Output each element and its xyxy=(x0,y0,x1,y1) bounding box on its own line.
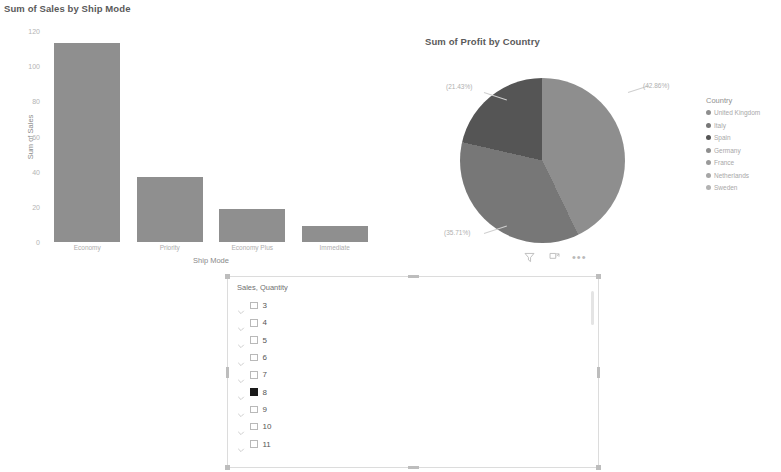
slicer-checkbox[interactable] xyxy=(250,319,258,327)
bar-column[interactable] xyxy=(46,31,129,242)
resize-handle-right-middle[interactable] xyxy=(597,367,600,378)
slicer-item-label: 6 xyxy=(263,353,267,362)
sales-by-ship-mode-visual[interactable]: Sum of Sales by Ship Mode Sum of Sales 1… xyxy=(0,0,392,268)
bar-rect[interactable] xyxy=(302,226,368,242)
slicer-checkbox[interactable] xyxy=(250,440,258,448)
slicer-item-label: 8 xyxy=(263,388,267,397)
slicer-item[interactable]: 9 xyxy=(237,401,590,418)
legend-item[interactable]: Sweden xyxy=(706,184,781,191)
resize-handle-bottom-left[interactable] xyxy=(225,465,230,470)
resize-handle-bottom-right[interactable] xyxy=(596,465,601,470)
bar-column[interactable] xyxy=(129,31,212,242)
legend-swatch-icon xyxy=(706,123,711,128)
slicer-checkbox[interactable] xyxy=(250,302,258,310)
legend-item[interactable]: Netherlands xyxy=(706,172,781,179)
bar-column[interactable] xyxy=(294,31,377,242)
chevron-down-icon[interactable] xyxy=(237,388,245,396)
bar-chart-y-tick: 120 xyxy=(28,28,40,35)
slicer-item-label: 5 xyxy=(263,336,267,345)
sales-quantity-slicer[interactable]: Sales, Quantity 34567891011 xyxy=(227,276,599,468)
legend-title: Country xyxy=(706,96,781,105)
chevron-down-icon[interactable] xyxy=(237,371,245,379)
focus-mode-icon[interactable] xyxy=(547,250,561,264)
slicer-checkbox[interactable] xyxy=(250,371,258,379)
bar-chart-x-axis-title: Ship Mode xyxy=(46,256,376,265)
chevron-down-icon[interactable] xyxy=(237,319,245,327)
profit-by-country-visual[interactable]: Sum of Profit by Country (42.86%) (21.43… xyxy=(392,0,712,276)
slicer-item-label: 9 xyxy=(263,405,267,414)
slicer-item[interactable]: 3 xyxy=(237,297,590,314)
resize-handle-left-middle[interactable] xyxy=(226,367,229,378)
slicer-item[interactable]: 5 xyxy=(237,332,590,349)
legend-swatch-icon xyxy=(706,185,711,190)
slicer-checkbox[interactable] xyxy=(250,406,258,414)
legend-item-label: Spain xyxy=(714,134,731,141)
pie-data-label-spain: (35.71%) xyxy=(444,229,470,236)
bar-rect[interactable] xyxy=(137,177,203,242)
bar-chart-title: Sum of Sales by Ship Mode xyxy=(4,3,131,14)
visual-toolbar: ••• xyxy=(522,250,587,264)
bar-chart-x-tick-label: Immediate xyxy=(294,244,377,251)
slicer-item[interactable]: 10 xyxy=(237,418,590,435)
legend-item[interactable]: France xyxy=(706,159,781,166)
bar-chart-x-tick-label: Economy Plus xyxy=(211,244,294,251)
resize-handle-bottom-middle[interactable] xyxy=(408,466,419,469)
resize-handle-top-left[interactable] xyxy=(225,274,230,279)
more-options-icon[interactable]: ••• xyxy=(572,254,587,260)
slicer-scrollbar[interactable] xyxy=(591,291,594,325)
bar-chart-y-tick: 40 xyxy=(32,168,40,175)
legend-item-label: Netherlands xyxy=(714,172,749,179)
chevron-down-icon[interactable] xyxy=(237,423,245,431)
legend-item[interactable]: United Kingdom xyxy=(706,109,781,116)
slicer-item[interactable]: 7 xyxy=(237,366,590,383)
legend-item[interactable]: Germany xyxy=(706,147,781,154)
bar-chart-x-tick-labels: EconomyPriorityEconomy PlusImmediate xyxy=(46,244,376,251)
legend-swatch-icon xyxy=(706,173,711,178)
bar-chart-y-tick: 100 xyxy=(28,63,40,70)
bar-chart-bars xyxy=(46,31,376,242)
slicer-item[interactable]: 8 xyxy=(237,383,590,400)
bar-column[interactable] xyxy=(211,31,294,242)
slicer-checkbox[interactable] xyxy=(250,388,258,396)
slicer-checkbox[interactable] xyxy=(250,336,258,344)
bar-rect[interactable] xyxy=(54,43,120,242)
bar-rect[interactable] xyxy=(219,209,285,242)
chevron-down-icon[interactable] xyxy=(237,336,245,344)
slicer-item-label: 4 xyxy=(263,318,267,327)
legend-item[interactable]: Spain xyxy=(706,134,781,141)
bar-chart-plot-area: Sum of Sales 120100806040200 xyxy=(46,31,376,242)
slicer-checkbox[interactable] xyxy=(250,354,258,362)
filter-icon[interactable] xyxy=(522,250,536,264)
legend-swatch-icon xyxy=(706,110,711,115)
slicer-item-label: 10 xyxy=(263,422,272,431)
slicer-item[interactable]: 4 xyxy=(237,314,590,331)
chevron-down-icon[interactable] xyxy=(237,405,245,413)
resize-handle-top-right[interactable] xyxy=(596,274,601,279)
bar-chart-x-tick-label: Economy xyxy=(46,244,129,251)
slicer-item-label: 3 xyxy=(263,301,267,310)
slicer-item[interactable]: 11 xyxy=(237,435,590,452)
legend-item-label: Sweden xyxy=(714,184,738,191)
slicer-item-label: 7 xyxy=(263,370,267,379)
chevron-down-icon[interactable] xyxy=(237,440,245,448)
legend-item-label: United Kingdom xyxy=(714,109,760,116)
pie-chart-circle[interactable] xyxy=(460,78,625,243)
bar-chart-y-tick: 60 xyxy=(32,133,40,140)
legend-item-label: Italy xyxy=(714,122,726,129)
legend-item-list: United KingdomItalySpainGermanyFranceNet… xyxy=(706,109,781,191)
bar-chart-y-tick: 0 xyxy=(36,239,40,246)
chevron-down-icon[interactable] xyxy=(237,302,245,310)
pie-data-label-italy: (21.43%) xyxy=(446,83,472,90)
resize-handle-top-middle[interactable] xyxy=(408,275,419,278)
legend-item[interactable]: Italy xyxy=(706,122,781,129)
legend-swatch-icon xyxy=(706,148,711,153)
bar-chart-x-tick-label: Priority xyxy=(129,244,212,251)
slicer-item-list: 34567891011 xyxy=(237,297,590,453)
pie-data-label-united-kingdom: (42.86%) xyxy=(643,82,669,89)
slicer-checkbox[interactable] xyxy=(250,423,258,431)
chevron-down-icon[interactable] xyxy=(237,354,245,362)
legend-swatch-icon xyxy=(706,160,711,165)
slicer-item[interactable]: 6 xyxy=(237,349,590,366)
pie-chart-title: Sum of Profit by Country xyxy=(425,36,540,47)
legend-item-label: France xyxy=(714,159,734,166)
